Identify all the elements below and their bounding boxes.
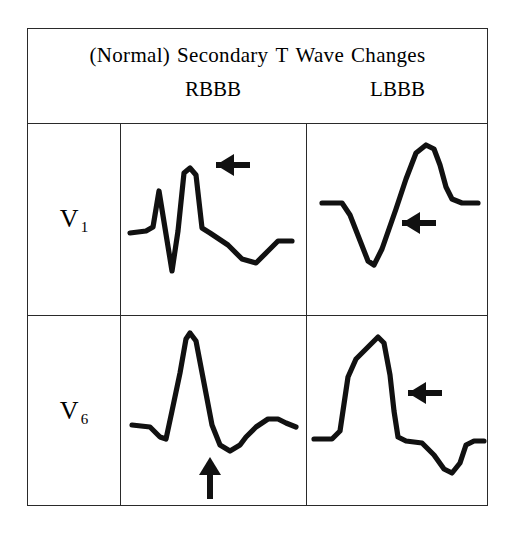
ecg-comparison-figure: (Normal)SecondaryTWaveChanges RBBB LBBB … <box>27 28 488 506</box>
title-word-0: (Normal) <box>90 43 171 67</box>
ecg-v6-rbbb <box>120 315 306 507</box>
figure-header: (Normal)SecondaryTWaveChanges RBBB LBBB <box>28 29 487 123</box>
lead-letter-v6: V <box>60 396 79 425</box>
annotation-arrow-left <box>408 382 442 404</box>
lead-label-v1: V1 <box>60 204 88 234</box>
figure-title: (Normal)SecondaryTWaveChanges <box>28 43 487 68</box>
title-word-2: T <box>275 43 288 67</box>
title-word-1: Secondary <box>177 43 268 67</box>
ecg-v1-lbbb <box>306 123 489 315</box>
annotation-arrow-left <box>402 212 436 234</box>
lead-subscript-v1: 1 <box>81 219 89 235</box>
ecg-v6-lbbb <box>306 315 489 507</box>
title-word-4: Changes <box>351 43 425 67</box>
annotation-arrow-left <box>216 154 250 176</box>
row-header-v1: V1 <box>28 123 120 315</box>
column-header-lbbb: LBBB <box>306 77 489 102</box>
lead-label-v6: V6 <box>60 396 88 426</box>
lead-letter-v1: V <box>60 204 79 233</box>
ecg-v1-rbbb <box>120 123 306 315</box>
annotation-arrow-up <box>199 457 221 499</box>
row-header-v6: V6 <box>28 315 120 507</box>
title-word-3: Wave <box>296 43 344 67</box>
lead-subscript-v6: 6 <box>81 411 89 427</box>
column-header-rbbb: RBBB <box>120 77 306 102</box>
